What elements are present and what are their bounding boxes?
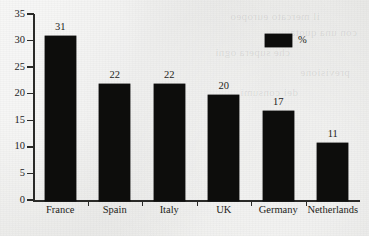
- legend-swatch-percent: [265, 34, 292, 47]
- bar-france[interactable]: [45, 36, 76, 201]
- bar-value-label: 20: [204, 81, 244, 92]
- y-axis-label: 15: [15, 115, 26, 126]
- bar-value-label: 31: [40, 22, 80, 33]
- x-axis-category-label: Netherlands: [293, 205, 369, 216]
- y-axis-tick: [27, 120, 34, 121]
- y-axis-tick: [27, 66, 34, 67]
- y-axis-label: 0: [20, 195, 25, 206]
- y-axis-tick: [27, 146, 34, 147]
- bar-value-label: 22: [95, 70, 135, 81]
- bar-value-label: 11: [313, 129, 353, 140]
- y-axis-label: 5: [20, 168, 25, 179]
- y-axis-label: 25: [15, 62, 26, 73]
- legend: %: [265, 34, 307, 47]
- bar-italy[interactable]: [154, 84, 185, 201]
- bar-germany[interactable]: [263, 111, 294, 201]
- y-axis-tick: [27, 93, 34, 94]
- y-axis-tick: [27, 40, 34, 41]
- y-axis-label: 30: [15, 35, 26, 46]
- bar-spain[interactable]: [99, 84, 130, 201]
- bar-uk[interactable]: [208, 95, 239, 201]
- y-axis-label: 20: [15, 88, 26, 99]
- bar-value-label: 17: [258, 97, 298, 108]
- y-axis-label: 10: [15, 141, 26, 152]
- bar-chart: 05101520253035 31France22Spain22Italy20U…: [0, 0, 369, 236]
- y-axis-label: 35: [15, 9, 26, 20]
- bar-value-label: 22: [149, 70, 189, 81]
- legend-label-percent: %: [298, 35, 307, 46]
- y-axis-tick: [27, 199, 34, 200]
- y-axis-tick: [27, 13, 34, 14]
- bar-netherlands[interactable]: [317, 143, 348, 201]
- y-axis-tick: [27, 173, 34, 174]
